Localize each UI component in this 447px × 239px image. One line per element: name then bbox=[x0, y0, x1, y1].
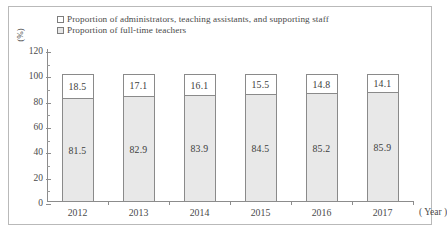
x-axis-label-2012: 2012 bbox=[48, 207, 108, 218]
bar-segment-administrators-2013[interactable]: 17.1 bbox=[123, 74, 155, 96]
legend-item-full-time-teachers: Proportion of full-time teachers bbox=[57, 25, 329, 36]
bar-segment-administrators-2016[interactable]: 14.8 bbox=[306, 74, 338, 93]
bar-value-full-time-teachers-2014: 83.9 bbox=[191, 143, 209, 154]
y-tick-0: 0 bbox=[46, 204, 51, 205]
y-tick-label-20: 20 bbox=[34, 173, 44, 183]
x-tick-2014 bbox=[230, 201, 231, 205]
x-tick-2016 bbox=[352, 201, 353, 205]
bar-value-full-time-teachers-2017: 85.9 bbox=[374, 142, 392, 153]
x-tick-2015 bbox=[291, 201, 292, 205]
x-tick-2017 bbox=[413, 201, 414, 205]
bar-value-administrators-2017: 14.1 bbox=[374, 78, 392, 89]
bar-value-full-time-teachers-2015: 84.5 bbox=[252, 142, 270, 153]
bar-value-administrators-2014: 16.1 bbox=[191, 80, 209, 91]
bar-group-2012[interactable]: 18.581.5 bbox=[62, 74, 94, 201]
y-tick-label-60: 60 bbox=[34, 122, 44, 132]
bar-value-administrators-2015: 15.5 bbox=[252, 79, 270, 90]
bar-segment-administrators-2014[interactable]: 16.1 bbox=[184, 74, 216, 94]
chart-legend: Proportion of administrators, teaching a… bbox=[57, 14, 329, 36]
bar-value-administrators-2012: 18.5 bbox=[69, 81, 87, 92]
bar-value-administrators-2013: 17.1 bbox=[130, 80, 148, 91]
x-axis-label-2015: 2015 bbox=[231, 207, 291, 218]
bar-series-container: 18.581.517.182.916.183.915.584.514.885.2… bbox=[47, 49, 413, 201]
x-axis-unit: ( Year ) bbox=[419, 207, 447, 217]
y-tick-label-100: 100 bbox=[29, 71, 43, 81]
legend-label-full-time-teachers: Proportion of full-time teachers bbox=[67, 25, 186, 36]
legend-label-administrators: Proportion of administrators, teaching a… bbox=[67, 14, 329, 25]
y-tick-label-0: 0 bbox=[38, 198, 43, 208]
bar-segment-full-time-teachers-2015[interactable]: 84.5 bbox=[245, 94, 277, 201]
plot-area: 020406080100120 18.581.517.182.916.183.9… bbox=[47, 49, 417, 205]
y-tick-label-40: 40 bbox=[34, 147, 44, 157]
bar-group-2016[interactable]: 14.885.2 bbox=[306, 74, 338, 201]
x-axis-label-2016: 2016 bbox=[292, 207, 352, 218]
bar-value-full-time-teachers-2013: 82.9 bbox=[130, 144, 148, 155]
y-tick-label-80: 80 bbox=[34, 97, 44, 107]
bar-group-2015[interactable]: 15.584.5 bbox=[245, 74, 277, 201]
bar-group-2014[interactable]: 16.183.9 bbox=[184, 74, 216, 201]
y-axis-unit: (%) bbox=[15, 24, 25, 46]
bar-segment-full-time-teachers-2017[interactable]: 85.9 bbox=[367, 92, 399, 201]
legend-swatch-administrators bbox=[57, 16, 64, 23]
bar-value-full-time-teachers-2012: 81.5 bbox=[69, 144, 87, 155]
bar-segment-full-time-teachers-2012[interactable]: 81.5 bbox=[62, 98, 94, 201]
bar-group-2013[interactable]: 17.182.9 bbox=[123, 74, 155, 201]
bar-segment-full-time-teachers-2016[interactable]: 85.2 bbox=[306, 93, 338, 201]
x-tick-2012 bbox=[108, 201, 109, 205]
x-axis-label-2013: 2013 bbox=[109, 207, 169, 218]
bar-group-2017[interactable]: 14.185.9 bbox=[367, 74, 399, 201]
bar-segment-full-time-teachers-2014[interactable]: 83.9 bbox=[184, 95, 216, 201]
chart-figure: Proportion of administrators, teaching a… bbox=[8, 6, 432, 225]
bar-segment-administrators-2017[interactable]: 14.1 bbox=[367, 74, 399, 92]
bar-segment-administrators-2012[interactable]: 18.5 bbox=[62, 74, 94, 97]
x-tick-2013 bbox=[169, 201, 170, 205]
x-axis-label-2017: 2017 bbox=[353, 207, 413, 218]
x-axis-label-2014: 2014 bbox=[170, 207, 230, 218]
legend-swatch-full-time-teachers bbox=[57, 27, 64, 34]
bar-segment-administrators-2015[interactable]: 15.5 bbox=[245, 74, 277, 94]
legend-item-administrators: Proportion of administrators, teaching a… bbox=[57, 14, 329, 25]
bar-value-administrators-2016: 14.8 bbox=[313, 79, 331, 90]
y-tick-label-120: 120 bbox=[29, 46, 43, 56]
bar-segment-full-time-teachers-2013[interactable]: 82.9 bbox=[123, 96, 155, 201]
bar-value-full-time-teachers-2016: 85.2 bbox=[313, 142, 331, 153]
